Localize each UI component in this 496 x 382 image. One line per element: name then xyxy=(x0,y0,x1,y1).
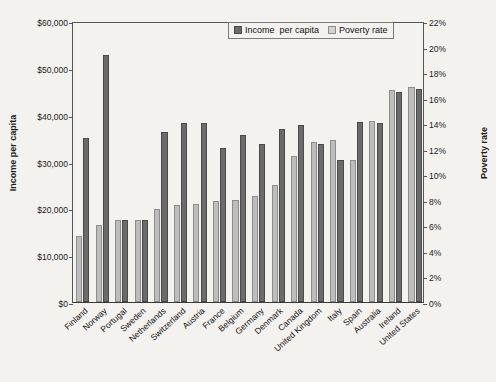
legend-swatch-poverty xyxy=(328,26,336,34)
bar-income-per-capita xyxy=(161,132,167,302)
bar-poverty-rate xyxy=(154,209,160,302)
y-right-tick-label: 22% xyxy=(429,18,446,28)
y-right-tick-mark xyxy=(423,100,427,101)
bar-poverty-rate xyxy=(330,140,336,302)
y-right-tick-mark xyxy=(423,23,427,24)
bar-income-per-capita xyxy=(220,148,226,302)
y-left-tick-label: $40,000 xyxy=(37,112,68,122)
y-left-tick-label: $0 xyxy=(59,299,68,309)
y-right-tick-mark xyxy=(423,202,427,203)
legend-item-income: Income per capita xyxy=(234,25,319,35)
y-left-tick-label: $30,000 xyxy=(37,159,68,169)
bar-poverty-rate xyxy=(174,205,180,302)
bar-income-per-capita xyxy=(142,220,148,302)
bar-income-per-capita xyxy=(357,122,363,302)
bar-income-per-capita xyxy=(318,144,324,302)
bar-income-per-capita xyxy=(377,123,383,302)
y-right-tick-mark xyxy=(423,278,427,279)
y-right-tick-mark xyxy=(423,151,427,152)
y-right-tick-mark xyxy=(423,125,427,126)
income-poverty-bar-chart: Income per capita Poverty rate $0$10,000… xyxy=(0,0,496,382)
bar-poverty-rate xyxy=(252,196,258,302)
bar-income-per-capita xyxy=(259,144,265,302)
bar-income-per-capita xyxy=(201,123,207,302)
y-right-tick-label: 12% xyxy=(429,146,446,156)
bar-income-per-capita xyxy=(337,160,343,302)
y-right-tick-label: 6% xyxy=(429,222,441,232)
bar-income-per-capita xyxy=(181,123,187,302)
y-right-tick-label: 20% xyxy=(429,44,446,54)
bar-poverty-rate xyxy=(350,160,356,302)
bar-poverty-rate xyxy=(311,142,317,302)
bar-poverty-rate xyxy=(135,220,141,302)
bar-poverty-rate xyxy=(232,200,238,302)
bar-income-per-capita xyxy=(416,89,422,302)
bar-poverty-rate xyxy=(96,225,102,302)
legend-label-income: Income per capita xyxy=(245,25,319,35)
y-right-tick-label: 2% xyxy=(429,273,441,283)
legend-item-poverty: Poverty rate xyxy=(328,25,388,35)
y-right-tick-mark xyxy=(423,227,427,228)
y-right-tick-label: 8% xyxy=(429,197,441,207)
bar-income-per-capita xyxy=(396,92,402,302)
bar-poverty-rate xyxy=(389,90,395,302)
y-right-tick-label: 0% xyxy=(429,299,441,309)
y-left-tick-label: $50,000 xyxy=(37,65,68,75)
bar-poverty-rate xyxy=(369,121,375,302)
y-right-tick-mark xyxy=(423,176,427,177)
y-right-tick-label: 4% xyxy=(429,248,441,258)
bar-income-per-capita xyxy=(298,125,304,302)
bar-poverty-rate xyxy=(213,201,219,302)
legend-label-poverty: Poverty rate xyxy=(339,25,388,35)
y-axis-right-title: Poverty rate xyxy=(479,93,489,213)
bar-poverty-rate xyxy=(115,220,121,302)
y-right-tick-label: 10% xyxy=(429,171,446,181)
y-left-tick-label: $20,000 xyxy=(37,205,68,215)
y-right-tick-label: 18% xyxy=(429,69,446,79)
plot-area: $0$10,000$20,000$30,000$40,000$50,000$60… xyxy=(72,22,424,303)
bar-income-per-capita xyxy=(279,129,285,302)
bar-income-per-capita xyxy=(83,138,89,302)
bar-poverty-rate xyxy=(291,156,297,302)
y-right-tick-mark xyxy=(423,253,427,254)
y-right-tick-label: 14% xyxy=(429,120,446,130)
bar-income-per-capita xyxy=(122,220,128,302)
x-axis-labels: FinlandNorwayPortugalSwedenNetherlandsSw… xyxy=(72,303,424,382)
bar-series-container xyxy=(73,23,423,302)
bar-income-per-capita xyxy=(240,135,246,302)
y-left-tick-label: $60,000 xyxy=(37,18,68,28)
bar-poverty-rate xyxy=(193,204,199,302)
y-right-tick-mark xyxy=(423,74,427,75)
y-right-tick-label: 16% xyxy=(429,95,446,105)
y-right-tick-mark xyxy=(423,49,427,50)
legend-swatch-income xyxy=(234,26,242,34)
bar-poverty-rate xyxy=(408,87,414,302)
bar-poverty-rate xyxy=(76,236,82,302)
chart-legend: Income per capita Poverty rate xyxy=(228,22,394,39)
bar-income-per-capita xyxy=(103,55,109,302)
y-axis-left-title: Income per capita xyxy=(8,93,18,213)
y-left-tick-label: $10,000 xyxy=(37,252,68,262)
bar-poverty-rate xyxy=(272,185,278,303)
